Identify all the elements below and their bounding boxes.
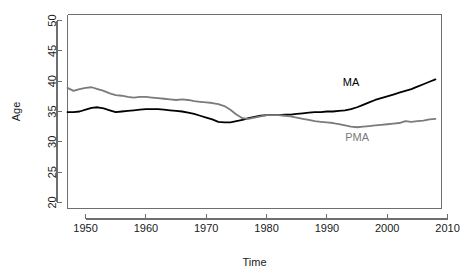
chart-figure: 20253035404550 1950196019701980199020002… [0,0,464,277]
y-tick-label: 25 [46,166,58,178]
y-tick-label: 50 [46,14,58,26]
x-tick-label: 2010 [435,222,459,234]
y-tick-label: 30 [46,136,58,148]
y-axis-title: Age [10,102,22,122]
line-chart: 20253035404550 1950196019701980199020002… [0,0,464,277]
data-series-group [68,79,436,127]
y-tick-label: 20 [46,196,58,208]
series-label-ma: MA [343,76,360,88]
y-tick-label: 35 [46,105,58,117]
x-tick-label: 1980 [254,222,278,234]
series-line-ma [68,79,436,122]
x-tick-label: 1950 [73,222,97,234]
x-tick-label: 1990 [315,222,339,234]
x-axis-title: Time [242,256,266,268]
series-line-pma [68,87,436,127]
y-tick-label: 45 [46,45,58,57]
y-axis-ticks: 20253035404550 [46,14,62,208]
series-label-pma: PMA [345,131,370,143]
x-tick-label: 1960 [134,222,158,234]
x-tick-label: 2000 [375,222,399,234]
x-tick-label: 1970 [194,222,218,234]
x-axis: 1950196019701980199020002010 [73,214,459,234]
x-axis-ticks: 1950196019701980199020002010 [73,214,459,234]
y-tick-label: 40 [46,75,58,87]
y-axis: 20253035404550 [46,14,62,208]
